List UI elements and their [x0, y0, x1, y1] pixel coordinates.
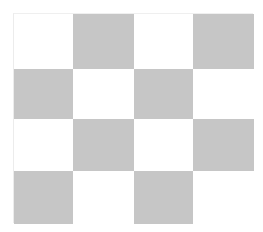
- board-square-light: [14, 14, 73, 69]
- board-square-light: [73, 69, 134, 119]
- board-square-dark: [134, 69, 193, 119]
- board-square-dark: [193, 14, 254, 69]
- board-square-dark: [14, 69, 73, 119]
- board-square-dark: [134, 171, 193, 224]
- checkerboard: [13, 13, 253, 223]
- board-square-light: [14, 119, 73, 171]
- board-square-light: [193, 171, 254, 224]
- board-square-light: [73, 171, 134, 224]
- board-square-light: [134, 14, 193, 69]
- board-square-light: [193, 69, 254, 119]
- board-square-dark: [14, 171, 73, 224]
- board-square-dark: [73, 119, 134, 171]
- board-square-dark: [73, 14, 134, 69]
- board-square-light: [134, 119, 193, 171]
- board-square-dark: [193, 119, 254, 171]
